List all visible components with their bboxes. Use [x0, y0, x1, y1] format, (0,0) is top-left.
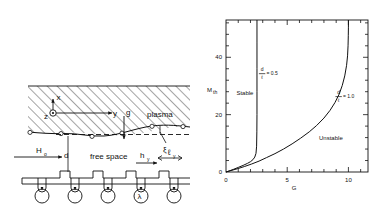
unstable-region-label: Unstable [319, 135, 343, 141]
curves-group [226, 20, 348, 172]
figure-root: x y z g plasma ξ H o [0, 0, 385, 213]
curve-1 [226, 20, 348, 172]
gap-dimension-d: d [64, 136, 68, 172]
y-tick-label: 20 [215, 112, 222, 118]
gravity-label: g [126, 108, 130, 117]
gap-label: d [64, 151, 68, 160]
magnetic-field-vector: H o [14, 146, 62, 157]
curve-label-1p0-denominator: ℓ [338, 97, 340, 103]
axis-tick-labels: 051002040 [215, 54, 352, 183]
curve-label-1p0: d ℓ = 1.0 [335, 89, 354, 103]
hy-sublabel: y [147, 156, 150, 162]
curve-0 [226, 20, 257, 172]
y-tick-label: 0 [219, 169, 223, 175]
hy-label: h [140, 151, 144, 160]
x-tick-label: 10 [345, 177, 352, 183]
corrugated-structure [22, 171, 190, 203]
figure-svg: x y z g plasma ξ H o [0, 0, 385, 213]
field-sublabel: o [44, 151, 47, 157]
lambda-label: λ [138, 192, 142, 201]
free-space-label: free space [90, 152, 128, 161]
y-axis-sublabel: th [213, 89, 217, 95]
x-tick-label: 5 [286, 177, 290, 183]
axis-z-label: z [44, 112, 48, 121]
axis-x-label: x [57, 93, 61, 102]
field-label: H [36, 146, 42, 155]
stability-chart-panel: 051002040 G M th Stable Unstable d ℓ = 0… [207, 20, 368, 191]
xi-annotation: ξ [160, 126, 167, 154]
y-tick-label: 40 [215, 54, 222, 60]
x-tick-label: 0 [224, 177, 228, 183]
hy-dimension: h y [136, 151, 157, 163]
ly-label: ℓ [167, 148, 171, 157]
ly-dimension: ℓ y [158, 148, 182, 160]
axis-y-label: y [113, 109, 117, 118]
curve-label-0p5: d ℓ = 0.5 [259, 66, 278, 80]
curve-label-0p5-denominator: ℓ [261, 74, 263, 80]
curve-label-0p5-numerator: d [261, 66, 264, 72]
curve-label-1p0-numerator: d [337, 89, 340, 95]
y-axis-label: M [207, 87, 212, 93]
curve-label-0p5-value: = 0.5 [267, 70, 278, 76]
curve-label-1p0-value: = 1.0 [343, 93, 354, 99]
xi-label: ξ [163, 145, 167, 154]
plasma-label: plasma [147, 110, 173, 119]
stable-region-label: Stable [236, 90, 254, 96]
schematic-panel: x y z g plasma ξ H o [14, 86, 190, 203]
x-axis-label: G [292, 185, 297, 191]
